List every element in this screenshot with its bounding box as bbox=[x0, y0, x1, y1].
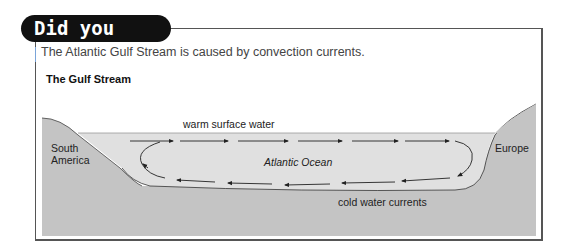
label-america: America bbox=[51, 154, 90, 166]
label-south: South bbox=[51, 142, 79, 154]
label-cold-currents: cold water currents bbox=[338, 196, 427, 208]
label-europe: Europe bbox=[495, 142, 529, 154]
gulf-stream-diagram: South America Europe warm surface water … bbox=[0, 0, 569, 251]
label-ocean: Atlantic Ocean bbox=[263, 156, 332, 168]
label-warm-surface: warm surface water bbox=[182, 118, 275, 130]
